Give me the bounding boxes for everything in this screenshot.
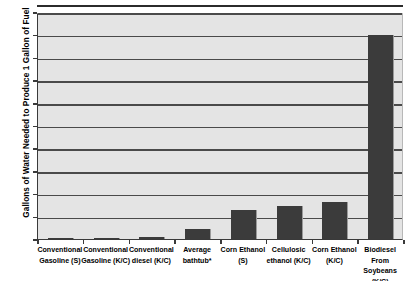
y-tick-mark xyxy=(33,194,37,196)
x-tick-mark xyxy=(83,240,85,244)
x-tick-mark xyxy=(37,240,39,244)
x-tick-mark xyxy=(129,240,131,244)
y-tick-mark xyxy=(33,58,37,60)
y-tick-mark xyxy=(33,35,37,37)
bar xyxy=(322,202,348,239)
x-tick-mark xyxy=(266,240,268,244)
x-label-line: Biodiesel xyxy=(352,245,407,256)
y-tick-mark xyxy=(33,126,37,128)
plot-area xyxy=(37,13,403,240)
chart-top-rule xyxy=(37,5,403,7)
x-tick-mark xyxy=(174,240,176,244)
bar xyxy=(185,229,211,239)
y-tick-mark xyxy=(33,217,37,219)
bar xyxy=(368,35,394,239)
x-label-line: From xyxy=(352,256,407,267)
water-per-gallon-bar-chart: Gallons of Water Needed to Produce 1 Gal… xyxy=(0,0,407,281)
x-label-line: (K/C) xyxy=(352,277,407,281)
bars xyxy=(38,14,402,239)
y-tick-mark xyxy=(33,148,37,150)
x-label-line: Soybeans xyxy=(352,266,407,277)
bar xyxy=(48,238,74,240)
x-axis-category-label: BiodieselFromSoybeans(K/C) xyxy=(352,245,407,281)
bar xyxy=(231,210,257,240)
y-tick-mark xyxy=(33,12,37,14)
bar xyxy=(139,237,165,239)
x-tick-mark xyxy=(312,240,314,244)
y-tick-mark xyxy=(33,171,37,173)
bar xyxy=(277,206,303,239)
y-tick-mark xyxy=(33,80,37,82)
y-tick-mark xyxy=(33,103,37,105)
x-tick-mark xyxy=(403,240,405,244)
bar xyxy=(94,238,120,240)
x-tick-mark xyxy=(357,240,359,244)
x-tick-mark xyxy=(220,240,222,244)
y-axis-title: Gallons of Water Needed to Produce 1 Gal… xyxy=(22,1,31,225)
